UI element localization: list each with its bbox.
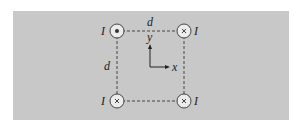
- wire-bottom-left-cross-icon: [110, 94, 124, 108]
- xy-axes-icon: [148, 44, 170, 69]
- side-label-top: d: [147, 15, 154, 29]
- wire-bottom-right-label: I: [193, 94, 199, 108]
- wire-top-left-dot-icon: [110, 24, 124, 38]
- square-wires-diagram: d d y x I I I I: [0, 0, 298, 125]
- wire-bottom-left-label: I: [100, 94, 106, 108]
- y-axis-label: y: [146, 30, 153, 44]
- wire-top-right-label: I: [193, 24, 199, 38]
- side-label-left: d: [104, 59, 111, 73]
- x-axis-label: x: [171, 60, 178, 74]
- wire-top-right-cross-icon: [177, 24, 191, 38]
- wire-bottom-right-cross-icon: [177, 94, 191, 108]
- wire-top-left-label: I: [100, 24, 106, 38]
